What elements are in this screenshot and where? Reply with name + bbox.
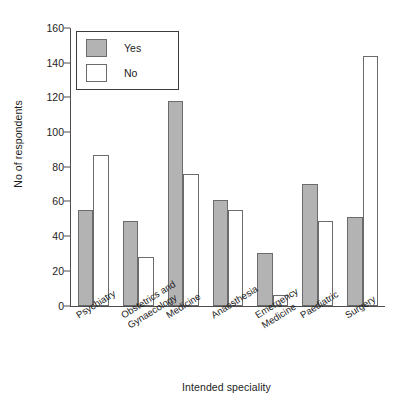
- legend-label-no: No: [124, 67, 137, 79]
- bar-yes: [302, 184, 317, 305]
- bar-group: [206, 28, 251, 306]
- bar-group: [250, 28, 295, 306]
- x-axis-title: Intended speciality: [0, 381, 397, 393]
- bar-group: [340, 28, 385, 306]
- bar-yes: [257, 253, 272, 305]
- bar-yes: [347, 217, 362, 305]
- bar-no: [93, 155, 108, 306]
- bar-group: [295, 28, 340, 306]
- legend-swatch-yes: [86, 39, 107, 57]
- bar-chart: No of respondents 020406080100120140160 …: [0, 0, 397, 411]
- bar-no: [363, 56, 378, 306]
- bar-yes: [78, 210, 93, 305]
- legend-item-no: No: [86, 64, 137, 82]
- bar-yes: [123, 221, 138, 306]
- bar-yes: [168, 101, 183, 306]
- y-axis-tick-labels: 020406080100120140160: [0, 0, 70, 411]
- bar-yes: [213, 200, 228, 306]
- legend: Yes No: [76, 31, 179, 90]
- legend-item-yes: Yes: [86, 39, 141, 57]
- legend-label-yes: Yes: [124, 42, 141, 54]
- bar-no: [183, 174, 198, 306]
- legend-swatch-no: [86, 64, 107, 82]
